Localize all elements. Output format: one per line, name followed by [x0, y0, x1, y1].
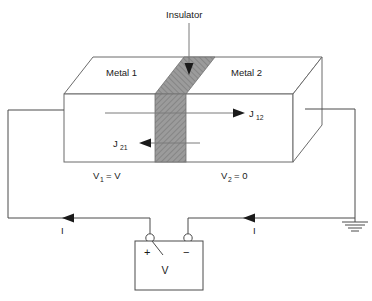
right-current-arrowhead — [243, 214, 255, 223]
ground-icon — [342, 218, 368, 231]
v1-label-subscript: 1 — [100, 176, 104, 183]
right-current-label: I — [253, 225, 256, 236]
battery-voltage-label: V — [161, 264, 168, 276]
v2-value: = 0 — [234, 170, 247, 181]
battery-plus-sign: + — [144, 246, 150, 258]
j21-label-subscript: 21 — [120, 144, 128, 151]
insulator-front-face — [155, 94, 186, 162]
v1-value: = V — [106, 170, 121, 181]
left-current-label: I — [61, 225, 64, 236]
battery-minus-sign: − — [183, 246, 189, 258]
metal-1-label: Metal 1 — [106, 67, 137, 78]
insulator-label: Insulator — [166, 9, 202, 20]
j12-label: J — [249, 108, 254, 119]
v2-label: V — [221, 170, 228, 181]
left-current-arrowhead — [62, 214, 74, 223]
metal-2-label: Metal 2 — [231, 67, 262, 78]
j12-label-subscript: 12 — [256, 114, 264, 121]
j21-label: J — [113, 138, 118, 149]
metal-insulator-metal-circuit-diagram: Insulator Metal 1 Metal 2 J 12 J 21 V 1 … — [0, 0, 372, 301]
v2-label-subscript: 2 — [228, 176, 232, 183]
v1-label: V — [93, 170, 100, 181]
